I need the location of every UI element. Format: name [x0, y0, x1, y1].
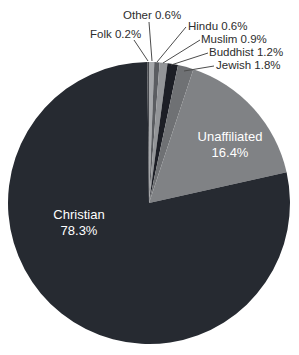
- leader-line-other: [149, 22, 152, 61]
- slice-label-other: Other 0.6%: [123, 9, 181, 21]
- slice-label-muslim: Muslim 0.9%: [201, 33, 267, 45]
- slice-label-jewish: Jewish 1.8%: [216, 59, 281, 71]
- leader-line-hindu: [157, 27, 186, 62]
- slice-label-christian: Christian78.3%: [53, 207, 104, 238]
- slice-label-buddhist: Buddhist 1.2%: [209, 46, 283, 58]
- slice-label-hindu: Hindu 0.6%: [188, 20, 247, 32]
- leader-line-folk: [134, 40, 148, 61]
- leader-line-muslim: [163, 40, 200, 63]
- religion-pie-chart: Other 0.6%Hindu 0.6%Muslim 0.9%Buddhist …: [0, 0, 299, 355]
- pie-chart-canvas: Other 0.6%Hindu 0.6%Muslim 0.9%Buddhist …: [0, 0, 299, 355]
- slice-label-folk: Folk 0.2%: [90, 28, 141, 40]
